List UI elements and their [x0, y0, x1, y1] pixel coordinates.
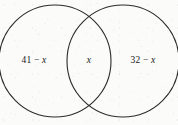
left-region-label: 41 − x: [21, 56, 46, 66]
left-set-circle: [0, 5, 111, 117]
venn-diagram-figure: 41 − x x 32 − x: [0, 0, 178, 125]
right-region-label: 32 − x: [130, 56, 155, 66]
right-set-circle: [67, 5, 178, 117]
intersection-region-label: x: [87, 56, 91, 66]
